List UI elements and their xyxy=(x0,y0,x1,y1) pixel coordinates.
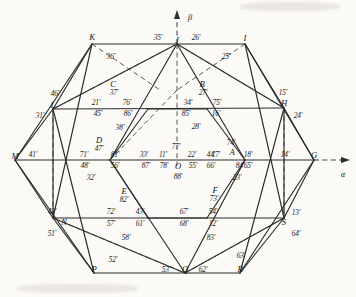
member-label: 42' xyxy=(48,208,57,215)
member-label: 13' xyxy=(292,209,301,216)
member-label: 31' xyxy=(36,112,45,119)
member-label: 51' xyxy=(48,230,57,237)
member-label: 68' xyxy=(180,220,189,227)
member-label: 41' xyxy=(29,151,38,158)
vertex-label-q: Q xyxy=(182,265,188,274)
member-label: 73' xyxy=(210,195,219,202)
member-label: 37' xyxy=(110,89,119,96)
member-label: 25' xyxy=(222,53,231,60)
vertex-label-b: B xyxy=(199,80,204,89)
beta-axis-label: β xyxy=(188,13,192,22)
member-label: 82' xyxy=(120,196,129,203)
vertex-label-h: H xyxy=(281,99,287,108)
vertex-label-k: K xyxy=(89,33,95,42)
member-label: 62' xyxy=(199,266,208,273)
vertex-label-d: D xyxy=(96,136,102,145)
vertex-label-n: N xyxy=(61,218,67,227)
member-label: 58' xyxy=(122,234,131,241)
member-label: 77' xyxy=(172,143,181,150)
member-label: 88' xyxy=(174,173,183,180)
vertex-label-c: C xyxy=(110,80,116,89)
member-label: 53' xyxy=(162,266,171,273)
member-label: 56' xyxy=(111,162,120,169)
vertex-label-a: A xyxy=(229,148,234,157)
member-label: 15' xyxy=(279,89,288,96)
member-label: 21' xyxy=(92,99,101,106)
member-label: 17' xyxy=(212,151,221,158)
member-label: 61' xyxy=(136,220,145,227)
alpha-axis-arrowhead xyxy=(341,157,350,163)
alpha-axis-label: α xyxy=(341,170,345,179)
member-label: 78' xyxy=(160,162,169,169)
member-label: 81' xyxy=(111,151,120,158)
member-label: 23' xyxy=(233,174,242,181)
member-label: 22' xyxy=(188,151,197,158)
vertex-label-j: J xyxy=(175,36,179,45)
member-label: 52' xyxy=(109,256,118,263)
member-label: 76' xyxy=(123,99,132,106)
member-label: 85' xyxy=(182,110,191,117)
member-label: 55' xyxy=(189,162,198,169)
member-label: 66' xyxy=(207,162,216,169)
member-label: 83' xyxy=(207,234,216,241)
vertex-label-p: P xyxy=(91,265,96,274)
vertex-label-g: G xyxy=(311,151,317,160)
member-label: 34' xyxy=(184,99,193,106)
member-label: 63' xyxy=(237,252,246,259)
member-label: 48' xyxy=(81,162,90,169)
member-label: 35' xyxy=(154,34,163,41)
member-label: 65' xyxy=(244,162,253,169)
member-label: 46' xyxy=(51,90,60,97)
member-label: 67' xyxy=(180,208,189,215)
member-label: 54' xyxy=(209,208,218,215)
vertex-label-i: I xyxy=(244,34,247,43)
member-label: 26' xyxy=(192,34,201,41)
member-label: 47' xyxy=(95,145,104,152)
member-label: 43' xyxy=(136,208,145,215)
vertex-label-s: S xyxy=(282,218,286,227)
member-label: 11' xyxy=(159,151,167,158)
member-label: 45' xyxy=(94,110,103,117)
member-label: 24' xyxy=(294,112,303,119)
member-label: 64' xyxy=(292,230,301,237)
vertex-label-f: F xyxy=(212,186,217,195)
member-label: 71' xyxy=(80,151,89,158)
diagram-canvas: β α KJILCBHMDAOGEFNSPQR 35'26'36'25'37'2… xyxy=(0,0,356,297)
member-label: 57' xyxy=(107,220,116,227)
vertex-label-m: M xyxy=(11,152,18,161)
member-label: 16' xyxy=(212,110,221,117)
member-label: 72' xyxy=(107,208,116,215)
vertex-label-r: R xyxy=(237,265,242,274)
member-label: 36' xyxy=(107,53,116,60)
member-label: 14' xyxy=(281,151,290,158)
member-label: 75' xyxy=(213,99,222,106)
vertex-label-o: O xyxy=(175,162,181,171)
member-label: 12' xyxy=(209,220,218,227)
member-label: 32' xyxy=(87,174,96,181)
member-label: 27' xyxy=(199,89,208,96)
member-label: 86' xyxy=(124,110,133,117)
vertex-label-l: L xyxy=(51,101,56,110)
member-label: 38' xyxy=(116,124,125,131)
member-label: 28' xyxy=(192,123,201,130)
beta-axis-arrowhead xyxy=(174,10,180,19)
member-label: 74' xyxy=(227,139,236,146)
member-label: 87' xyxy=(142,162,151,169)
member-label: 33' xyxy=(140,151,149,158)
member-label: 18' xyxy=(244,151,253,158)
vertex-label-e: E xyxy=(121,187,126,196)
